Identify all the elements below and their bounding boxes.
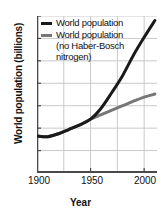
x-tick-label-1950: 1950	[72, 176, 112, 186]
legend-swatch-secondary	[41, 34, 52, 37]
x-tick-label-2000: 2000	[125, 176, 161, 186]
legend-label-secondary: World population (no Haber-Bosch nitroge…	[56, 29, 124, 62]
legend-item-world-population: World population	[41, 17, 153, 28]
x-axis-title: Year	[0, 197, 161, 208]
chart-legend: World population World population (no Ha…	[41, 17, 153, 63]
y-axis-title: World population (billions)	[13, 4, 24, 164]
legend-label-primary: World population	[56, 17, 123, 28]
legend-item-no-haber-bosch: World population (no Haber-Bosch nitroge…	[41, 29, 153, 62]
x-tick-label-1900: 1900	[19, 176, 59, 186]
chart-figure: World population (billions) 7 6 5 4 3 2 …	[0, 0, 161, 216]
legend-swatch-primary	[41, 22, 52, 25]
